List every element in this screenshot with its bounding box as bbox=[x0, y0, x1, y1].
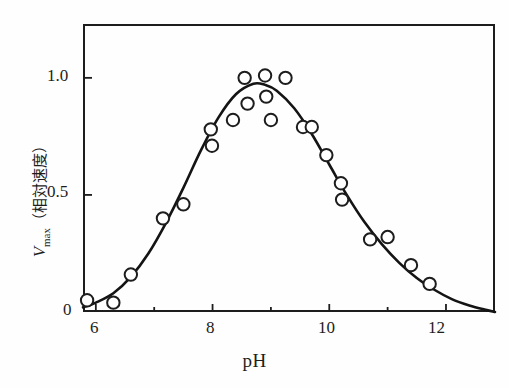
data-point-marker bbox=[238, 72, 250, 84]
y-tick-label-0: 0 bbox=[63, 300, 72, 320]
y-axis-paren-text: （相対速度） bbox=[31, 138, 49, 228]
data-point-marker bbox=[107, 296, 119, 308]
data-point-marker bbox=[336, 193, 348, 205]
data-point-marker bbox=[381, 231, 393, 243]
data-point-marker bbox=[206, 140, 218, 152]
data-point-marker bbox=[265, 114, 277, 126]
x-tick-label-12: 12 bbox=[428, 318, 445, 338]
data-point-marker bbox=[405, 259, 417, 271]
data-point-marker bbox=[157, 212, 169, 224]
data-point-marker bbox=[279, 72, 291, 84]
y-axis-title: Vmax（相対速度） bbox=[28, 73, 51, 323]
y-axis-subscript: max bbox=[40, 228, 52, 247]
data-point-marker bbox=[205, 123, 217, 135]
data-point-marker bbox=[227, 114, 239, 126]
y-axis-symbol: V bbox=[30, 247, 49, 257]
data-point-marker bbox=[81, 294, 93, 306]
data-point-marker bbox=[320, 149, 332, 161]
data-point-marker bbox=[177, 198, 189, 210]
x-axis-title: pH bbox=[0, 350, 509, 372]
figure-container: 1.0 0.5 0 6 8 10 12 pH Vmax（相対速度） bbox=[0, 0, 509, 388]
x-tick-label-10: 10 bbox=[318, 318, 335, 338]
data-point-marker bbox=[241, 97, 253, 109]
x-tick-label-6: 6 bbox=[90, 318, 99, 338]
data-point-marker bbox=[260, 90, 272, 102]
data-point-marker bbox=[125, 268, 137, 280]
x-tick-label-8: 8 bbox=[206, 318, 215, 338]
data-point-marker bbox=[423, 278, 435, 290]
data-points bbox=[81, 69, 436, 309]
data-point-marker bbox=[306, 121, 318, 133]
data-point-marker bbox=[259, 69, 271, 81]
data-point-marker bbox=[335, 177, 347, 189]
data-point-marker bbox=[364, 233, 376, 245]
